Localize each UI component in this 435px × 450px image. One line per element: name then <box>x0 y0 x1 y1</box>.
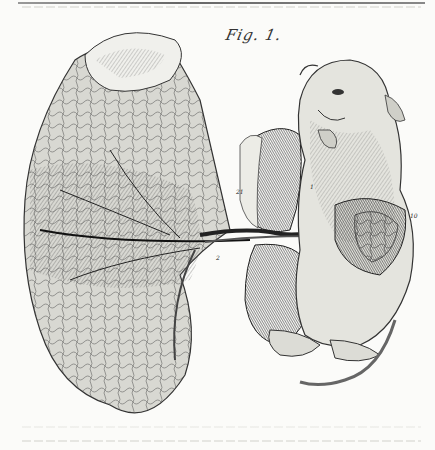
eye <box>332 89 344 95</box>
figure-label: 10 <box>410 212 418 219</box>
scanned-page: Fig. 1. <box>0 0 435 450</box>
figure-label: 2 <box>216 254 220 261</box>
placenta <box>24 33 250 413</box>
engraving <box>0 0 435 450</box>
figure-label: 1 <box>310 183 314 190</box>
figure-label: 21 <box>236 188 244 195</box>
